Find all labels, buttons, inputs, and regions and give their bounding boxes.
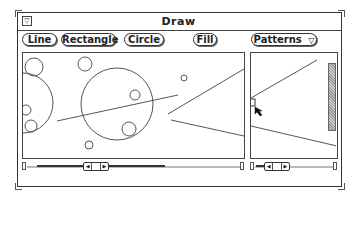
circle-shape — [130, 90, 140, 100]
circle-shape — [78, 57, 92, 71]
pattern-swatch[interactable] — [328, 63, 336, 131]
scroll-left-arrow-icon[interactable]: ◀ — [84, 163, 92, 170]
circle-shape — [25, 58, 43, 76]
circle-shape — [21, 105, 31, 115]
scrollbar-right-start-anchor[interactable] — [250, 162, 254, 170]
scrollbar-left-elevator[interactable]: ◀ ▶ — [83, 162, 109, 171]
scrollbar-left-end-anchor[interactable] — [240, 162, 244, 170]
line-shape — [168, 69, 244, 114]
circle-shape — [0, 73, 53, 133]
circle-shape — [81, 68, 153, 140]
arrow-cursor-icon — [254, 106, 266, 118]
scroll-left-arrow-icon[interactable]: ◀ — [265, 163, 273, 170]
line-shape — [57, 95, 178, 121]
circle-shape — [122, 122, 136, 136]
scroll-drag-area[interactable] — [273, 163, 281, 170]
circle-shape — [25, 120, 37, 132]
circle-shape — [181, 75, 187, 81]
scrollbar-right-elevator[interactable]: ◀ ▶ — [264, 162, 290, 171]
scrollbar-left-start-anchor[interactable] — [22, 162, 26, 170]
scroll-drag-area[interactable] — [92, 163, 100, 170]
scroll-right-arrow-icon[interactable]: ▶ — [101, 163, 108, 170]
scrollbar-right-end-anchor[interactable] — [333, 162, 337, 170]
scroll-right-arrow-icon[interactable]: ▶ — [282, 163, 289, 170]
circle-shape — [85, 141, 93, 149]
line-shape — [171, 120, 244, 136]
